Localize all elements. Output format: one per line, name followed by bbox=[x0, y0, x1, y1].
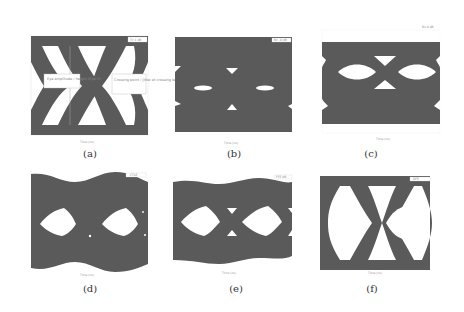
eye-diagram-c: Rx 8 dB Time (ns) bbox=[310, 12, 460, 142]
eye-diagram-d: CTLE Time (ns) bbox=[20, 168, 160, 278]
caption-e: (e) bbox=[216, 283, 256, 294]
eye-plot-b: Rx -8 dB Time (ns) bbox=[164, 28, 304, 148]
legend-b: Rx -8 dB bbox=[274, 38, 287, 42]
xlabel-d: Time (ns) bbox=[79, 273, 94, 277]
xlabel-e: Time (ns) bbox=[221, 271, 236, 275]
xlabel-c: Time (ns) bbox=[375, 137, 390, 141]
legend-c: Rx 8 dB bbox=[422, 25, 434, 29]
caption-f: (f) bbox=[352, 283, 392, 294]
eye-diagram-a: Eye amplitude / height (Eye H) Crossing … bbox=[20, 28, 160, 148]
eye-plot-f: DFE Time (ns) bbox=[310, 168, 450, 278]
caption-d: (d) bbox=[70, 283, 110, 294]
caption-c: (c) bbox=[351, 148, 391, 159]
eye-diagram-e: FFE dB Time (ns) bbox=[164, 168, 304, 278]
legend-d: CTLE bbox=[130, 173, 138, 177]
eye-plot-c: Rx 8 dB Time (ns) bbox=[310, 12, 460, 142]
legend-a: Tx 1 dB bbox=[129, 38, 141, 42]
xlabel-f: Time (ns) bbox=[367, 271, 382, 275]
eye-plot-d: CTLE Time (ns) bbox=[20, 168, 160, 278]
eye-diagram-f: DFE Time (ns) bbox=[310, 168, 450, 278]
caption-b: (b) bbox=[214, 148, 254, 159]
legend-f: DFE bbox=[413, 177, 419, 181]
xlabel-a: Time (ns) bbox=[79, 140, 94, 144]
caption-a: (a) bbox=[70, 148, 110, 159]
xlabel-b: Time (ns) bbox=[223, 141, 238, 145]
eye-plot-e: FFE dB Time (ns) bbox=[164, 168, 304, 278]
eye-plot-a: Eye amplitude / height (Eye H) Crossing … bbox=[20, 28, 160, 148]
eye-diagram-b: Rx -8 dB Time (ns) bbox=[164, 28, 304, 148]
legend-e: FFE dB bbox=[276, 175, 286, 179]
annotation-eye-height: Eye amplitude / height (Eye H) bbox=[47, 77, 101, 81]
